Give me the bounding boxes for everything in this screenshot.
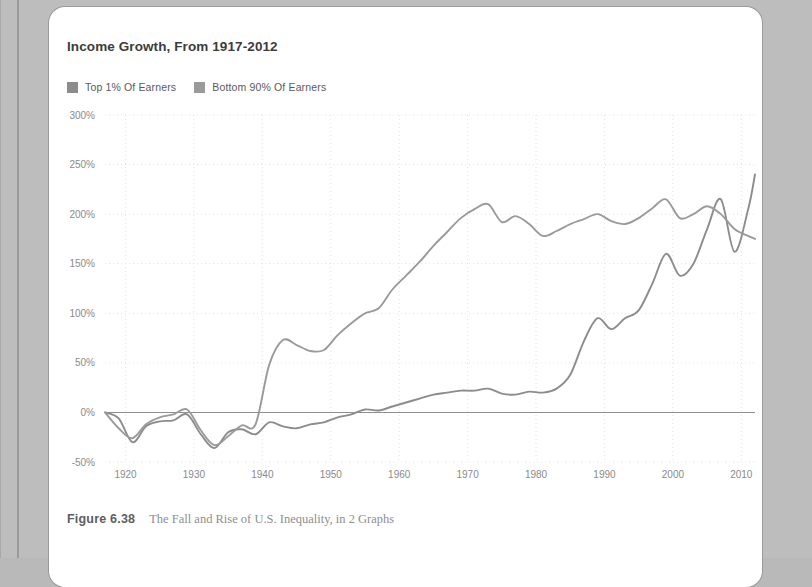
x-axis-tick-label: 1970: [457, 469, 480, 480]
page-edge-line: [0, 0, 1, 558]
y-axis-tick-label: 250%: [69, 159, 95, 170]
chart-svg: 300%250%200%150%100%50%0%-50%19201930194…: [49, 7, 762, 507]
chart-series-line: [105, 199, 755, 445]
x-axis-tick-label: 2010: [730, 469, 753, 480]
x-axis-tick-label: 1960: [388, 469, 411, 480]
x-axis-tick-label: 1930: [183, 469, 206, 480]
figure-caption: Figure 6.38The Fall and Rise of U.S. Ine…: [67, 512, 747, 527]
figure-number: Figure 6.38: [67, 512, 135, 526]
y-axis-tick-label: 50%: [75, 357, 95, 368]
y-axis-tick-label: 100%: [69, 308, 95, 319]
y-axis-tick-label: 300%: [69, 110, 95, 121]
y-axis-tick-label: -50%: [72, 457, 95, 468]
figure-caption-text: The Fall and Rise of U.S. Inequality, in…: [149, 512, 394, 526]
x-axis-tick-label: 1920: [114, 469, 137, 480]
chart-plot-area: 300%250%200%150%100%50%0%-50%19201930194…: [49, 7, 762, 507]
x-axis-tick-label: 1980: [525, 469, 548, 480]
x-axis-tick-label: 1950: [320, 469, 343, 480]
y-axis-tick-label: 0%: [81, 407, 96, 418]
y-axis-tick-label: 200%: [69, 209, 95, 220]
page-binding-line: [17, 0, 19, 558]
figure-card: Income Growth, From 1917-2012 Top 1% Of …: [49, 7, 762, 587]
y-axis-tick-label: 150%: [69, 258, 95, 269]
x-axis-tick-label: 2000: [662, 469, 685, 480]
x-axis-tick-label: 1940: [251, 469, 274, 480]
x-axis-tick-label: 1990: [593, 469, 616, 480]
chart-series-line: [105, 174, 755, 448]
